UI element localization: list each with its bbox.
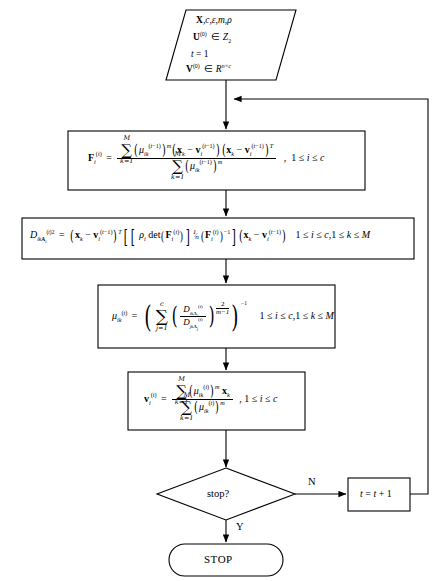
cluster-center-formula: vi(t) = ∑Mk=1(μik(t))m xk ∑Mk=1(μik(t))m… xyxy=(144,384,277,415)
membership-formula: μik(t) = (∑cj=1(DikAi(t)DjkAj(t))2m−1)−1… xyxy=(112,303,334,329)
distance-formula: DikAi(t)2 = (xk − vi(t−1))T[[ ρi det(Fi(… xyxy=(30,228,370,244)
increment-box-label: t = t + 1 xyxy=(360,488,392,500)
stop-decision-label: stop? xyxy=(207,488,229,500)
fuzzy-covariance-formula: Fi(t) = ∑Mk=1(μik(t−1))m(xk − vi(t−1))(x… xyxy=(88,143,324,174)
edge-label-yes: Y xyxy=(236,521,244,533)
edge-label-no: N xyxy=(308,476,316,488)
input-node-line-1: X,c,ε,m,ρ xyxy=(196,15,232,26)
input-node-line-2: U(0) ∈ Z2 xyxy=(193,32,231,43)
stop-terminator-label: STOP xyxy=(204,553,233,566)
input-node-line-3: t = 1 xyxy=(191,49,209,60)
input-node-line-4: V(0) ∈ Rn×c xyxy=(186,64,231,75)
